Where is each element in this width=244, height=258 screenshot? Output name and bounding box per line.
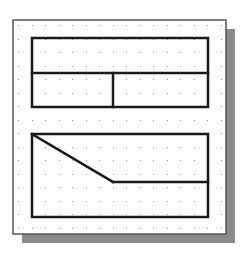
grid-dot bbox=[167, 201, 168, 202]
grid-dot bbox=[99, 160, 100, 161]
grid-dot bbox=[18, 66, 19, 67]
grid-dot bbox=[221, 79, 222, 80]
grid-dot bbox=[221, 106, 222, 107]
grid-dot bbox=[86, 174, 87, 175]
grid-dot bbox=[153, 201, 154, 202]
grid-dot bbox=[140, 174, 141, 175]
grid-dot bbox=[180, 174, 181, 175]
grid-dot bbox=[126, 93, 127, 94]
grid-dot bbox=[140, 66, 141, 67]
grid-dot bbox=[18, 201, 19, 202]
grid-dot bbox=[140, 214, 141, 215]
grid-dot bbox=[86, 66, 87, 67]
grid-dot bbox=[72, 201, 73, 202]
grid-dot bbox=[221, 214, 222, 215]
grid-dot bbox=[221, 93, 222, 94]
grid-dot bbox=[99, 79, 100, 80]
grid-dot bbox=[167, 79, 168, 80]
grid-dot bbox=[59, 201, 60, 202]
grid-dot bbox=[126, 187, 127, 188]
grid-dot bbox=[194, 228, 195, 229]
grid-dot bbox=[59, 66, 60, 67]
grid-dot bbox=[126, 160, 127, 161]
grid-dot bbox=[45, 214, 46, 215]
grid-dot bbox=[99, 201, 100, 202]
grid-dot bbox=[153, 187, 154, 188]
grid-dot bbox=[180, 79, 181, 80]
grid-dot bbox=[18, 93, 19, 94]
grid-dot bbox=[59, 160, 60, 161]
grid-dot bbox=[140, 79, 141, 80]
grid-dot bbox=[140, 160, 141, 161]
grid-dot bbox=[113, 25, 114, 26]
grid-dot bbox=[45, 201, 46, 202]
grid-dot bbox=[140, 147, 141, 148]
grid-dot bbox=[45, 52, 46, 53]
grid-dot bbox=[194, 93, 195, 94]
grid-dot bbox=[221, 187, 222, 188]
grid-dot bbox=[126, 214, 127, 215]
grid-dot bbox=[153, 79, 154, 80]
grid-dot bbox=[45, 228, 46, 229]
grid-dot bbox=[140, 25, 141, 26]
grid-dot bbox=[45, 66, 46, 67]
grid-dot bbox=[221, 120, 222, 121]
grid-dot bbox=[126, 147, 127, 148]
grid-dot bbox=[99, 52, 100, 53]
grid-dot bbox=[99, 93, 100, 94]
grid-dot bbox=[113, 228, 114, 229]
grid-dot bbox=[99, 147, 100, 148]
grid-dot bbox=[86, 201, 87, 202]
grid-dot bbox=[99, 25, 100, 26]
grid-dot bbox=[180, 25, 181, 26]
grid-dot bbox=[140, 93, 141, 94]
grid-dot bbox=[167, 120, 168, 121]
grid-dot bbox=[45, 147, 46, 148]
grid-dot bbox=[180, 93, 181, 94]
grid-dot bbox=[59, 93, 60, 94]
grid-dot bbox=[153, 214, 154, 215]
grid-dot bbox=[153, 160, 154, 161]
grid-dot bbox=[126, 25, 127, 26]
grid-dot bbox=[18, 120, 19, 121]
grid-dot bbox=[72, 120, 73, 121]
grid-dot bbox=[153, 52, 154, 53]
grid-dot bbox=[113, 214, 114, 215]
grid-dot bbox=[86, 79, 87, 80]
grid-dot bbox=[167, 174, 168, 175]
grid-dot bbox=[72, 174, 73, 175]
grid-dot bbox=[113, 147, 114, 148]
grid-dot bbox=[59, 228, 60, 229]
grid-dot bbox=[113, 174, 114, 175]
grid-dot bbox=[180, 120, 181, 121]
grid-dot bbox=[18, 187, 19, 188]
grid-dot bbox=[18, 133, 19, 134]
grid-dot bbox=[18, 39, 19, 40]
grid-dot bbox=[72, 25, 73, 26]
grid-dot bbox=[153, 66, 154, 67]
grid-dot bbox=[113, 120, 114, 121]
grid-dot bbox=[59, 174, 60, 175]
grid-dot bbox=[126, 79, 127, 80]
grid-dot bbox=[72, 160, 73, 161]
grid-dot bbox=[45, 79, 46, 80]
grid-dot bbox=[126, 52, 127, 53]
grid-dot bbox=[86, 52, 87, 53]
grid-dot bbox=[140, 52, 141, 53]
grid-dot bbox=[32, 228, 33, 229]
grid-dot bbox=[180, 187, 181, 188]
grid-dot bbox=[86, 214, 87, 215]
grid-dot bbox=[45, 174, 46, 175]
grid-dot bbox=[126, 66, 127, 67]
grid-dot bbox=[72, 214, 73, 215]
grid-dot bbox=[221, 228, 222, 229]
grid-dot bbox=[194, 25, 195, 26]
grid-dot bbox=[18, 147, 19, 148]
grid-dot bbox=[72, 228, 73, 229]
grid-dot bbox=[167, 160, 168, 161]
grid-dot bbox=[86, 25, 87, 26]
grid-dot bbox=[194, 160, 195, 161]
grid-dot bbox=[99, 66, 100, 67]
grid-dot bbox=[167, 93, 168, 94]
grid-dot bbox=[153, 25, 154, 26]
